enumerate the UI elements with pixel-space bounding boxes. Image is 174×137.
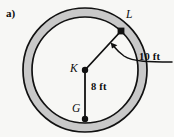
part-label: a)	[6, 8, 15, 19]
point-label-L: L	[126, 9, 132, 21]
point-marker-L	[118, 28, 125, 35]
point-label-G: G	[72, 103, 80, 115]
point-marker-K	[82, 67, 88, 73]
dimension-label-8ft: 8 ft	[91, 82, 107, 93]
annulus-figure-svg	[0, 0, 174, 137]
figure-container: a) L K G 8 ft 10 ft	[0, 0, 174, 137]
point-label-K: K	[70, 63, 78, 75]
dimension-label-10ft: 10 ft	[139, 52, 160, 63]
point-marker-G	[82, 116, 88, 122]
